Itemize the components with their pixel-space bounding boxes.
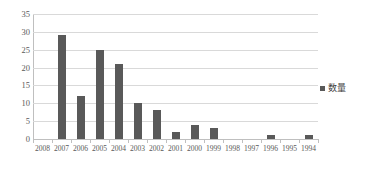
x-axis-tick-label: 1999 <box>204 144 223 153</box>
y-axis-tick-label: 35 <box>4 10 30 19</box>
bar-slot <box>261 14 280 139</box>
x-axis-tick-label: 2001 <box>166 144 185 153</box>
legend-item-label: 数量 <box>328 83 346 93</box>
bar <box>134 103 142 139</box>
x-axis-tick-mark <box>261 139 262 143</box>
bar-slot <box>109 14 128 139</box>
bar <box>115 64 123 139</box>
y-axis-tick-labels: 05101520253035 <box>0 0 30 169</box>
bar-slot <box>33 14 52 139</box>
y-axis-tick-label: 20 <box>4 64 30 73</box>
x-axis-tick-mark <box>147 139 148 143</box>
x-axis-tick-mark <box>166 139 167 143</box>
bar-slot <box>204 14 223 139</box>
x-axis-tick-mark <box>280 139 281 143</box>
x-axis-tick-label: 1995 <box>280 144 299 153</box>
x-axis-tick-label: 2002 <box>147 144 166 153</box>
y-axis-tick-label: 5 <box>4 117 30 126</box>
bar <box>210 128 218 139</box>
x-axis-tick-marks <box>33 139 318 143</box>
chart-legend: 数量 <box>320 83 346 93</box>
x-axis-tick-label: 1997 <box>242 144 261 153</box>
bar-slot <box>52 14 71 139</box>
x-axis-tick-mark <box>128 139 129 143</box>
bar-slot <box>128 14 147 139</box>
x-axis-tick-mark <box>223 139 224 143</box>
x-axis-tick-label: 1998 <box>223 144 242 153</box>
x-axis-tick-label: 1996 <box>261 144 280 153</box>
plot-area <box>33 14 318 139</box>
bar <box>153 110 161 139</box>
bar <box>172 132 180 139</box>
x-axis-tick-labels: 2008200720062005200420032002200120001999… <box>33 144 318 158</box>
bar <box>58 35 66 139</box>
y-axis-tick-label: 30 <box>4 28 30 37</box>
x-axis-tick-label: 2008 <box>33 144 52 153</box>
bar-slot <box>185 14 204 139</box>
x-axis-tick-label: 2004 <box>109 144 128 153</box>
x-axis-tick-label: 1994 <box>299 144 318 153</box>
bar <box>77 96 85 139</box>
x-axis-tick-mark <box>52 139 53 143</box>
bar <box>96 50 104 139</box>
x-axis-tick-mark <box>318 139 319 143</box>
y-axis-tick-label: 10 <box>4 99 30 108</box>
x-axis-tick-mark <box>109 139 110 143</box>
bar-slot <box>90 14 109 139</box>
x-axis-tick-mark <box>71 139 72 143</box>
x-axis-tick-label: 2003 <box>128 144 147 153</box>
x-axis-tick-mark <box>90 139 91 143</box>
bar-slot <box>223 14 242 139</box>
legend-swatch-icon <box>320 86 325 91</box>
y-axis-tick-label: 25 <box>4 46 30 55</box>
bar-slot <box>242 14 261 139</box>
y-axis-tick-label: 0 <box>4 135 30 144</box>
bar <box>191 125 199 139</box>
bar-slot <box>71 14 90 139</box>
bar-chart: 05101520253035 2008200720062005200420032… <box>0 0 366 169</box>
bar-slot <box>299 14 318 139</box>
x-axis-tick-label: 2006 <box>71 144 90 153</box>
bar-slot <box>166 14 185 139</box>
x-axis-tick-label: 2000 <box>185 144 204 153</box>
x-axis-tick-mark <box>33 139 34 143</box>
y-axis-tick-label: 15 <box>4 81 30 90</box>
x-axis-tick-label: 2007 <box>52 144 71 153</box>
bar-slot <box>280 14 299 139</box>
x-axis-tick-mark <box>299 139 300 143</box>
x-axis-tick-mark <box>242 139 243 143</box>
bar-slot <box>147 14 166 139</box>
x-axis-tick-mark <box>204 139 205 143</box>
x-axis-tick-mark <box>185 139 186 143</box>
x-axis-tick-label: 2005 <box>90 144 109 153</box>
